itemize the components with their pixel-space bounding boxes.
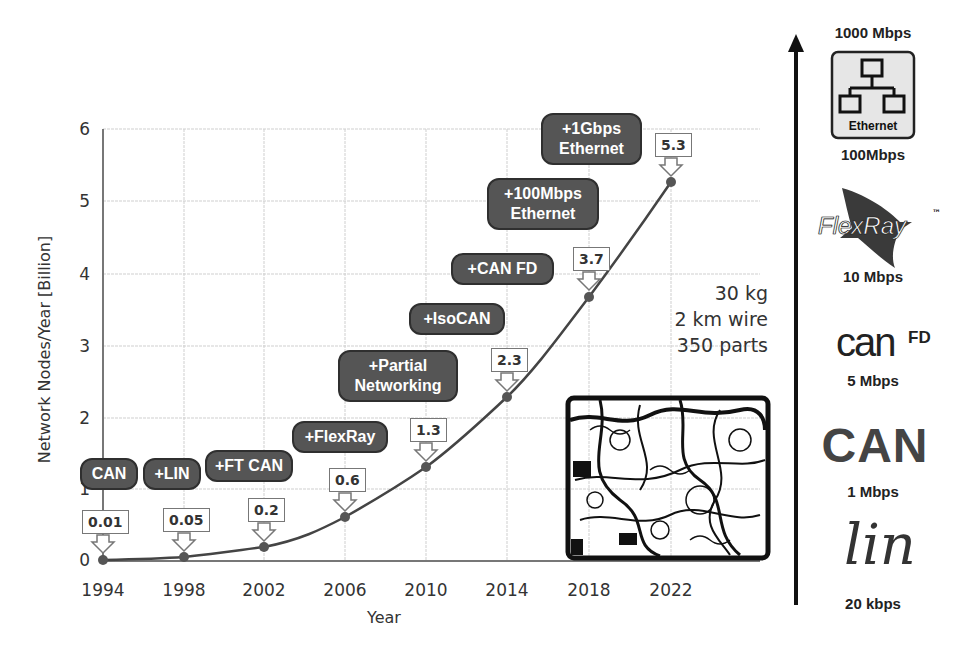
x-tick: 2002	[234, 580, 294, 600]
x-tick: 2018	[559, 580, 619, 600]
rate-lin: 20 kbps	[803, 595, 943, 612]
x-tick: 2022	[641, 580, 701, 600]
pill-ft-can: +FT CAN	[205, 450, 293, 482]
pill-line: Networking	[348, 376, 448, 396]
harness-wire: 2 km wire	[648, 306, 768, 332]
pill-line: +Partial	[348, 356, 448, 376]
value-callout-2002: 0.2	[248, 498, 285, 522]
y-tick: 4	[70, 264, 90, 284]
pill-line: +100Mbps	[497, 184, 589, 204]
value-callout-2018: 3.7	[573, 247, 610, 271]
y-axis-title: Network Nodes/Year [Billion]	[35, 230, 54, 470]
ethernet-logo-label: Ethernet	[832, 119, 914, 133]
x-tick: 2014	[477, 580, 537, 600]
value-callout-2006: 0.6	[329, 468, 366, 492]
value-callout-2010: 1.3	[410, 418, 447, 442]
pill-line: +1Gbps	[551, 119, 632, 139]
rate-canfd: 5 Mbps	[803, 372, 943, 389]
pill-partial-networking: +PartialNetworking	[338, 350, 458, 402]
pill-lin: +LIN	[143, 458, 201, 490]
canfd-logo-icon: can	[836, 322, 895, 362]
canfd-logo-sup: FD	[908, 328, 931, 348]
pill-1gbps-ethernet: +1GbpsEthernet	[541, 113, 642, 165]
harness-weight: 30 kg	[648, 280, 768, 306]
pill-can-fd: +CAN FD	[451, 253, 554, 285]
lin-logo-icon: lin	[830, 510, 930, 580]
x-tick: 1998	[154, 580, 214, 600]
pill-isocan: +IsoCAN	[409, 303, 505, 335]
x-tick: 2010	[396, 580, 456, 600]
pill-line: Ethernet	[551, 139, 632, 159]
value-callout-2022: 5.3	[655, 133, 692, 157]
x-axis-title: Year	[367, 608, 401, 627]
y-tick: 0	[70, 550, 90, 570]
pill-line: Ethernet	[497, 204, 589, 224]
pill-can: CAN	[80, 458, 138, 490]
y-tick: 3	[70, 336, 90, 356]
rate-flexray: 10 Mbps	[803, 268, 943, 285]
pill-flexray: +FlexRay	[292, 421, 388, 453]
y-tick: 2	[70, 408, 90, 428]
rate-1000mbps: 1000 Mbps	[803, 24, 943, 41]
value-callout-1998: 0.05	[163, 508, 210, 532]
flexray-logo-text: FlexRay	[818, 212, 906, 240]
value-callout-1994: 0.01	[82, 510, 129, 534]
y-tick: 6	[70, 119, 90, 139]
y-tick: 5	[70, 191, 90, 211]
flexray-tm: ™	[932, 208, 941, 218]
pill-100mbps-ethernet: +100MbpsEthernet	[487, 178, 599, 230]
rate-can: 1 Mbps	[803, 483, 943, 500]
x-tick: 1994	[73, 580, 133, 600]
can-logo-icon: CAN	[820, 420, 930, 472]
harness-parts: 350 parts	[648, 332, 768, 358]
rate-ethernet: 100Mbps	[803, 146, 943, 163]
value-callout-2014: 2.3	[491, 348, 528, 372]
wiring-harness-image	[568, 398, 768, 558]
speed-arrow-head	[788, 34, 804, 52]
x-tick: 2006	[315, 580, 375, 600]
